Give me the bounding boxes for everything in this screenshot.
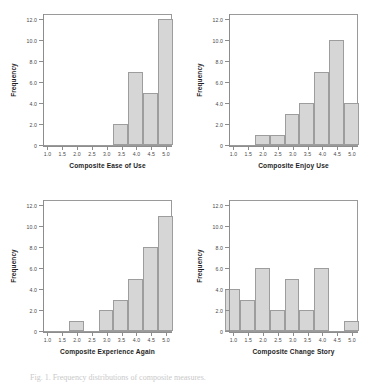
y-tick-label: 2.0 bbox=[29, 308, 37, 314]
x-tick-label: 4.5 bbox=[333, 151, 341, 157]
histogram-bar bbox=[143, 93, 158, 145]
x-tick-label: 3.5 bbox=[304, 151, 312, 157]
x-tick bbox=[293, 146, 294, 150]
x-tick-label: 2.5 bbox=[88, 337, 96, 343]
x-tick-label: 3.5 bbox=[304, 337, 312, 343]
x-tick-label: 1.5 bbox=[245, 151, 253, 157]
histogram-bar bbox=[270, 135, 285, 145]
x-tick-label: 1.0 bbox=[230, 151, 238, 157]
y-tick-label: 6.0 bbox=[215, 266, 223, 272]
x-tick-label: 2.0 bbox=[259, 337, 267, 343]
x-tick-label: 4.0 bbox=[319, 151, 327, 157]
y-tick-label: 0 bbox=[34, 143, 37, 149]
histogram-bar bbox=[158, 19, 173, 145]
y-tick-labels: 02.04.06.08.010.012.0 bbox=[186, 200, 229, 332]
x-tick-label: 3.0 bbox=[289, 151, 297, 157]
y-tick-label: 4.0 bbox=[215, 287, 223, 293]
x-tick-label: 2.0 bbox=[259, 151, 267, 157]
x-tick-label: 1.5 bbox=[245, 337, 253, 343]
x-tick-label: 2.5 bbox=[274, 151, 282, 157]
plot-frame bbox=[43, 200, 172, 332]
y-tick-label: 12.0 bbox=[213, 203, 224, 209]
histogram-panel-3: 02.04.06.08.010.012.01.01.52.02.53.03.54… bbox=[186, 188, 371, 374]
x-tick bbox=[166, 146, 167, 150]
x-tick-label: 5.0 bbox=[162, 337, 170, 343]
y-axis bbox=[229, 200, 230, 332]
histogram-bar bbox=[240, 300, 255, 331]
x-tick bbox=[308, 146, 309, 150]
y-tick-label: 10.0 bbox=[27, 38, 38, 44]
x-tick bbox=[122, 332, 123, 336]
x-tick bbox=[166, 332, 167, 336]
x-axis-title: Composite Change Story bbox=[229, 348, 358, 355]
x-tick bbox=[337, 146, 338, 150]
x-tick-label: 2.0 bbox=[73, 337, 81, 343]
y-axis-title: Frequency bbox=[196, 200, 206, 332]
x-tick bbox=[352, 332, 353, 336]
x-tick bbox=[151, 332, 152, 336]
x-tick bbox=[278, 332, 279, 336]
histogram-bar bbox=[314, 72, 329, 145]
plot-frame bbox=[43, 14, 172, 146]
histogram-bar bbox=[344, 321, 359, 331]
x-tick bbox=[308, 332, 309, 336]
histogram-bar bbox=[255, 268, 270, 331]
histogram-bar bbox=[255, 135, 270, 145]
x-tick bbox=[248, 146, 249, 150]
x-tick-label: 3.5 bbox=[118, 337, 126, 343]
x-tick bbox=[47, 146, 48, 150]
y-tick-label: 10.0 bbox=[213, 38, 224, 44]
histogram-panel-2: 02.04.06.08.010.012.01.01.52.02.53.03.54… bbox=[0, 188, 185, 374]
x-tick bbox=[322, 146, 323, 150]
y-tick-label: 12.0 bbox=[27, 17, 38, 23]
x-axis-title: Composite Enjoy Use bbox=[229, 162, 358, 169]
y-tick-labels: 02.04.06.08.010.012.0 bbox=[186, 14, 229, 146]
histogram-bar bbox=[329, 40, 344, 145]
x-tick-label: 1.5 bbox=[59, 151, 67, 157]
y-tick-label: 4.0 bbox=[29, 101, 37, 107]
y-tick-label: 8.0 bbox=[29, 245, 37, 251]
x-tick bbox=[322, 332, 323, 336]
y-tick-label: 8.0 bbox=[29, 59, 37, 65]
histogram-bar bbox=[158, 216, 173, 331]
x-tick-label: 4.0 bbox=[133, 151, 141, 157]
x-axis-title: Composite Ease of Use bbox=[43, 162, 172, 169]
x-tick bbox=[122, 146, 123, 150]
y-tick-labels: 02.04.06.08.010.012.0 bbox=[0, 14, 43, 146]
x-tick bbox=[62, 332, 63, 336]
histogram-bar bbox=[299, 310, 314, 331]
y-tick-label: 2.0 bbox=[215, 308, 223, 314]
x-tick-label: 4.5 bbox=[147, 151, 155, 157]
y-tick-label: 4.0 bbox=[215, 101, 223, 107]
histogram-bar bbox=[113, 124, 128, 145]
x-tick-label: 5.0 bbox=[348, 151, 356, 157]
x-axis-title: Composite Experience Again bbox=[43, 348, 172, 355]
plot-area bbox=[44, 15, 171, 145]
y-axis bbox=[43, 14, 44, 146]
y-tick-label: 2.0 bbox=[215, 122, 223, 128]
x-tick-label: 3.5 bbox=[118, 151, 126, 157]
y-tick-label: 10.0 bbox=[27, 224, 38, 230]
histogram-panel-1: 02.04.06.08.010.012.01.01.52.02.53.03.54… bbox=[186, 2, 371, 188]
y-axis-title: Frequency bbox=[196, 14, 206, 146]
x-tick bbox=[352, 146, 353, 150]
x-tick-label: 3.0 bbox=[103, 337, 111, 343]
plot-area bbox=[44, 201, 171, 331]
y-tick-label: 10.0 bbox=[213, 224, 224, 230]
x-tick-label: 4.5 bbox=[333, 337, 341, 343]
x-tick bbox=[263, 146, 264, 150]
x-tick bbox=[62, 146, 63, 150]
y-tick-label: 12.0 bbox=[27, 203, 38, 209]
x-tick-label: 4.5 bbox=[147, 337, 155, 343]
y-tick-labels: 02.04.06.08.010.012.0 bbox=[0, 200, 43, 332]
x-tick bbox=[263, 332, 264, 336]
plot-area bbox=[230, 201, 357, 331]
x-tick-label: 2.5 bbox=[88, 151, 96, 157]
histogram-bar bbox=[128, 279, 143, 331]
plot-frame bbox=[229, 14, 358, 146]
histogram-bar bbox=[143, 247, 158, 331]
histogram-bar bbox=[344, 103, 359, 145]
x-tick bbox=[293, 332, 294, 336]
x-tick-labels: 1.01.52.02.53.03.54.04.55.0 bbox=[43, 146, 172, 160]
x-tick-labels: 1.01.52.02.53.03.54.04.55.0 bbox=[43, 332, 172, 346]
